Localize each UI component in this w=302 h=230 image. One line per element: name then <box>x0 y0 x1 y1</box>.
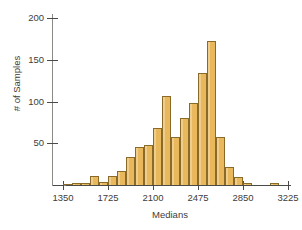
histogram-bar <box>243 183 252 185</box>
histogram-bar <box>234 177 243 185</box>
histogram-bar <box>135 147 144 185</box>
histogram-bar <box>90 176 99 185</box>
histogram-figure: 50100150200 135017252100247528503225 # o… <box>0 0 302 230</box>
histogram-bar <box>225 167 234 185</box>
histogram-bar <box>270 183 279 185</box>
histogram-bar <box>99 182 108 185</box>
x-axis-line <box>53 185 291 186</box>
x-axis-title-text: Medians <box>152 209 188 220</box>
histogram-bar <box>162 96 171 185</box>
histogram-bar <box>216 137 225 185</box>
y-axis-title: # of Samples <box>11 34 22 134</box>
x-tick-label-1350: 1350 <box>41 192 85 203</box>
y-tick-label-200: 200 <box>4 13 44 23</box>
histogram-bar <box>81 183 90 186</box>
y-tick-label-50: 50 <box>4 138 44 148</box>
histogram-bar <box>108 176 117 185</box>
histogram-bars <box>53 14 293 185</box>
x-tick-label-2475: 2475 <box>176 192 220 203</box>
histogram-bar <box>72 183 81 185</box>
histogram-bar <box>171 137 180 185</box>
histogram-bar <box>189 103 198 185</box>
histogram-bar <box>207 41 216 185</box>
histogram-bar <box>144 145 153 185</box>
histogram-bar <box>126 157 135 185</box>
histogram-bar <box>198 73 207 185</box>
histogram-bar <box>63 184 72 186</box>
x-axis-title: Medians <box>0 209 302 220</box>
x-tick-label-3225: 3225 <box>266 192 302 203</box>
x-tick-label-2850: 2850 <box>221 192 265 203</box>
histogram-bar <box>180 118 189 185</box>
histogram-bar <box>153 128 162 185</box>
x-tick-label-2100: 2100 <box>131 192 175 203</box>
x-tick-label-1725: 1725 <box>86 192 130 203</box>
histogram-bar <box>117 171 126 185</box>
